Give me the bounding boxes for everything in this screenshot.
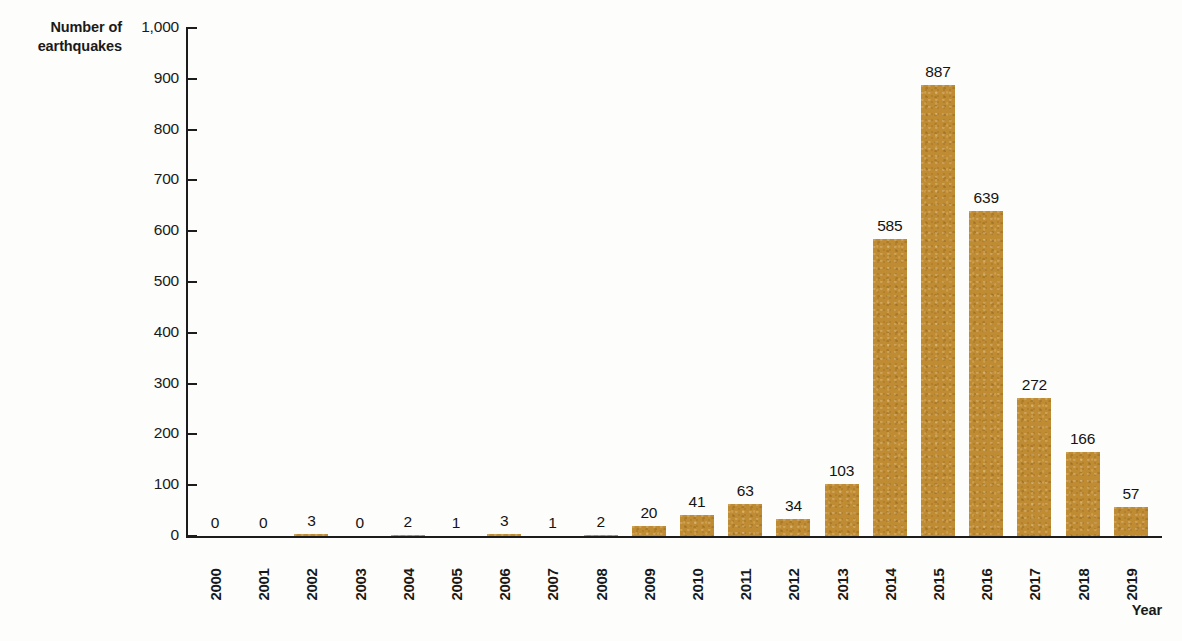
bar[interactable]: [632, 526, 666, 536]
bar[interactable]: [1114, 507, 1148, 536]
bar-value-label: 57: [1099, 485, 1163, 503]
x-axis-category-label: 2006: [496, 568, 513, 600]
x-axis-category-label: 2012: [785, 568, 802, 600]
bar-value-label: 887: [906, 63, 970, 81]
bar[interactable]: [584, 535, 618, 536]
x-axis-category-label: 2008: [592, 568, 609, 600]
bar-value-label: 166: [1051, 430, 1115, 448]
bar[interactable]: [969, 211, 1003, 536]
x-axis-title: Year: [1132, 602, 1162, 618]
x-axis-category-label: 2010: [689, 568, 706, 600]
x-axis-category-label: 2016: [978, 568, 995, 600]
x-axis-category-label: 2015: [930, 568, 947, 600]
x-axis-category-label: 2005: [448, 568, 465, 600]
bar-value-label: 272: [1002, 376, 1066, 394]
bar[interactable]: [1017, 398, 1051, 536]
earthquake-bar-chart: Number of earthquakes 010020030040050060…: [0, 0, 1182, 641]
x-axis-category-label: 2007: [544, 568, 561, 600]
x-axis-category-label: 2001: [255, 568, 272, 600]
bar[interactable]: [921, 85, 955, 536]
x-axis-category-label: 2019: [1122, 568, 1139, 600]
x-axis-category-label: 2003: [351, 568, 368, 600]
x-axis-category-label: 2004: [399, 568, 416, 600]
x-axis-category-label: 2011: [737, 569, 754, 600]
x-axis-category-label: 2002: [303, 568, 320, 600]
bar-value-label: 639: [954, 189, 1018, 207]
bar[interactable]: [680, 515, 714, 536]
x-axis-category-label: 2000: [207, 568, 224, 600]
x-axis-category-label: 2017: [1026, 568, 1043, 600]
bar[interactable]: [294, 534, 328, 536]
x-axis-category-label: 2013: [833, 568, 850, 600]
bars-layer: 0200002001320020200322004120053200612007…: [0, 0, 1182, 641]
bar[interactable]: [728, 504, 762, 536]
bar-value-label: 103: [810, 462, 874, 480]
x-axis-category-label: 2009: [640, 568, 657, 600]
bar[interactable]: [487, 534, 521, 536]
bar-value-label: 585: [858, 217, 922, 235]
x-axis-category-label: 2018: [1074, 568, 1091, 600]
x-axis-category-label: 2014: [881, 568, 898, 600]
bar[interactable]: [391, 535, 425, 536]
bar[interactable]: [776, 519, 810, 536]
bar[interactable]: [825, 484, 859, 536]
bar[interactable]: [873, 239, 907, 536]
bar[interactable]: [1066, 452, 1100, 536]
bar-value-label: 34: [761, 497, 825, 515]
